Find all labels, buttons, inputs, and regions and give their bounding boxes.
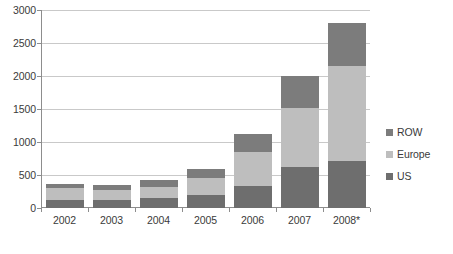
bar-stack bbox=[140, 180, 178, 208]
bar-group[interactable] bbox=[140, 10, 178, 208]
bar-segment-europe[interactable] bbox=[140, 187, 178, 198]
y-axis-label-1000: 1000 bbox=[0, 137, 36, 147]
x-axis-tick bbox=[135, 208, 136, 212]
bar-stack bbox=[93, 185, 131, 208]
bar-segment-europe[interactable] bbox=[46, 188, 84, 200]
bar-group[interactable] bbox=[187, 10, 225, 208]
y-axis-label-500: 500 bbox=[0, 170, 36, 180]
x-axis-tick bbox=[88, 208, 89, 212]
legend-swatch-row-icon bbox=[386, 129, 393, 136]
legend-label-row: ROW bbox=[397, 127, 422, 138]
bar-group[interactable] bbox=[234, 10, 272, 208]
legend-item-row[interactable]: ROW bbox=[386, 122, 430, 142]
bar-group[interactable] bbox=[93, 10, 131, 208]
x-axis-tick bbox=[323, 208, 324, 212]
x-axis-tick bbox=[276, 208, 277, 212]
x-axis-label-2004: 2004 bbox=[135, 214, 182, 226]
x-axis-label-2002: 2002 bbox=[41, 214, 88, 226]
bar-stack bbox=[187, 169, 225, 208]
bar-segment-row[interactable] bbox=[140, 180, 178, 187]
legend-item-europe[interactable]: Europe bbox=[386, 144, 430, 164]
legend-label-us: US bbox=[397, 171, 411, 182]
bar-stack bbox=[281, 76, 319, 208]
y-axis-label-1500: 1500 bbox=[0, 104, 36, 114]
bar-segment-row[interactable] bbox=[187, 169, 225, 178]
x-axis-label-2005: 2005 bbox=[182, 214, 229, 226]
y-axis-label-2500: 2500 bbox=[0, 38, 36, 48]
y-axis-label-0: 0 bbox=[0, 203, 36, 213]
bar-segment-us[interactable] bbox=[187, 195, 225, 208]
x-axis-label-2007: 2007 bbox=[276, 214, 323, 226]
bar-segment-europe[interactable] bbox=[187, 178, 225, 195]
x-axis-tick bbox=[41, 208, 42, 212]
bar-segment-row[interactable] bbox=[281, 76, 319, 108]
x-axis-label-2003: 2003 bbox=[88, 214, 135, 226]
x-axis-tick bbox=[370, 208, 371, 212]
y-axis-label-2000: 2000 bbox=[0, 71, 36, 81]
bar-segment-us[interactable] bbox=[93, 200, 131, 208]
bar-group[interactable] bbox=[281, 10, 319, 208]
bar-segment-row[interactable] bbox=[234, 134, 272, 152]
bar-segment-us[interactable] bbox=[46, 200, 84, 208]
bar-segment-europe[interactable] bbox=[281, 108, 319, 167]
bar-segment-us[interactable] bbox=[140, 198, 178, 208]
bar-segment-europe[interactable] bbox=[328, 66, 366, 161]
bar-segment-us[interactable] bbox=[234, 186, 272, 208]
bar-stack bbox=[46, 184, 84, 208]
bar-segment-us[interactable] bbox=[281, 167, 319, 208]
bar-segment-europe[interactable] bbox=[93, 190, 131, 201]
bar-segment-row[interactable] bbox=[328, 23, 366, 67]
bar-segment-us[interactable] bbox=[328, 161, 366, 208]
stacked-bar-chart: 3000 2500 2000 1500 1000 500 0 200220032… bbox=[0, 0, 453, 254]
legend: ROW Europe US bbox=[386, 122, 430, 188]
legend-label-europe: Europe bbox=[397, 149, 430, 160]
x-axis-label-2006: 2006 bbox=[229, 214, 276, 226]
y-axis-label-3000: 3000 bbox=[0, 5, 36, 15]
x-axis-tick bbox=[229, 208, 230, 212]
legend-item-us[interactable]: US bbox=[386, 166, 430, 186]
bar-stack bbox=[234, 134, 272, 208]
legend-swatch-us-icon bbox=[386, 173, 393, 180]
legend-swatch-europe-icon bbox=[386, 151, 393, 158]
bar-group[interactable] bbox=[328, 10, 366, 208]
bars-layer bbox=[41, 10, 370, 208]
bar-group[interactable] bbox=[46, 10, 84, 208]
x-axis-label-2008star: 2008* bbox=[323, 214, 370, 226]
bar-segment-europe[interactable] bbox=[234, 152, 272, 186]
bar-stack bbox=[328, 23, 366, 208]
x-axis-tick bbox=[182, 208, 183, 212]
